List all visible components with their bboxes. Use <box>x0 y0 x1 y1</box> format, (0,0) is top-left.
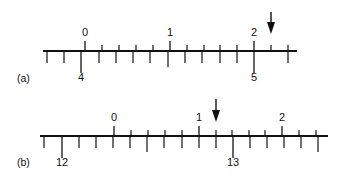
scale-b: (b)0121213 <box>17 99 328 168</box>
lower-tick-label: 5 <box>251 71 257 83</box>
lower-tick-label: 4 <box>78 71 84 83</box>
vernier-scale-diagram: (a)01245 (b)0121213 <box>0 0 343 180</box>
upper-tick-label: 2 <box>251 26 257 38</box>
upper-tick-label: 2 <box>279 111 285 123</box>
pointer-arrow-icon <box>267 12 275 34</box>
pointer-arrow-icon <box>212 99 220 122</box>
figure-label: (a) <box>17 72 30 84</box>
scale-a: (a)01245 <box>17 12 297 84</box>
lower-tick-label: 13 <box>227 156 239 168</box>
upper-tick-label: 1 <box>196 111 202 123</box>
upper-tick-label: 1 <box>167 26 173 38</box>
figure-label: (b) <box>17 156 30 168</box>
upper-tick-label: 0 <box>82 26 88 38</box>
lower-tick-label: 12 <box>56 156 68 168</box>
upper-tick-label: 0 <box>111 111 117 123</box>
